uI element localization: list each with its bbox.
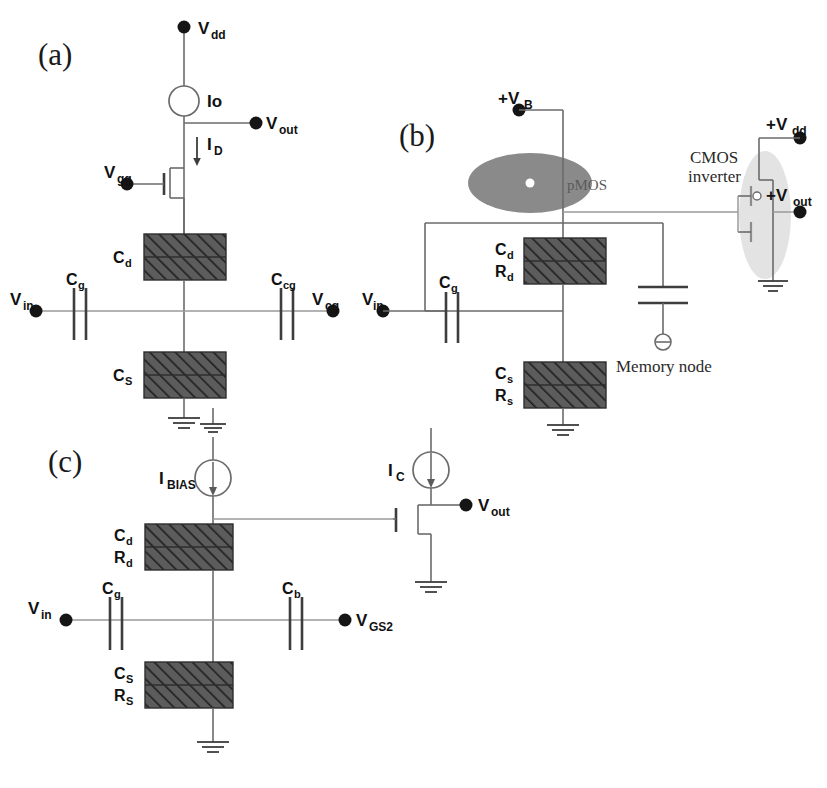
label-vdd-a-sub: dd (211, 28, 226, 42)
label-vout-a-sub: out (279, 123, 298, 137)
label-io-a: Io (207, 92, 222, 111)
label-cd-a: C (113, 249, 125, 266)
label-vgs2-c-sub: GS2 (369, 620, 393, 634)
label-vcg-a-sub: cg (325, 299, 339, 313)
label-id-a: I (207, 135, 212, 154)
label-vout-a: V (266, 114, 278, 133)
label-vdd-b: +V (766, 115, 788, 134)
label-ic-c: I (388, 461, 393, 480)
label-cd-c-sub: d (126, 535, 133, 547)
label-cd-b: C (495, 241, 507, 258)
terminal-vout-a (250, 117, 263, 130)
label-vout-c-sub: out (491, 505, 510, 519)
label-ic-c-sub: C (396, 470, 405, 484)
label-vin-a: V (10, 290, 22, 309)
label-cs-c: C (114, 665, 126, 682)
label-memory-node-b: Memory node (616, 357, 712, 376)
panel-a-letter: (a) (38, 37, 72, 72)
label-rd-b: R (495, 263, 507, 280)
label-vin-c: V (28, 599, 40, 618)
label-cb-c: C (282, 580, 294, 597)
terminal-vin-c (60, 614, 73, 627)
label-vdd-a: V (198, 19, 210, 38)
label-cg-b: C (439, 274, 451, 291)
label-cd-b-sub: d (507, 249, 514, 261)
label-rd-b-sub: d (507, 271, 514, 283)
label-vcg-a: V (312, 290, 324, 309)
label-cg-c-sub: g (114, 588, 121, 600)
terminal-vgs2-c (339, 614, 352, 627)
label-vin-a-sub: in (23, 299, 34, 313)
label-cg-b-sub: g (451, 282, 458, 294)
label-cb-c-sub: b (294, 588, 301, 600)
label-ibias-c: I (159, 469, 164, 488)
label-ccg-a-sub: cg (283, 279, 296, 291)
label-inverter-b: inverter (688, 167, 741, 186)
label-id-a-sub: D (214, 144, 223, 158)
label-cd-a-sub: d (125, 257, 132, 269)
inv-pmos-bubble-b (753, 192, 761, 200)
label-rs-b: R (495, 387, 507, 404)
circuit-figure: (a) V dd Io V out I D V gg (0, 0, 827, 788)
label-vout-c: V (478, 496, 490, 515)
label-rd-c-sub: d (126, 557, 133, 569)
label-vb-b: +V (498, 89, 520, 108)
label-cs-c-sub: S (126, 673, 133, 685)
label-vgg-a: V (104, 163, 116, 182)
panel-c-letter: (c) (48, 444, 82, 479)
label-rd-c: R (114, 549, 126, 566)
panel-b-letter: (b) (399, 118, 435, 153)
label-rs-c-sub: S (126, 695, 133, 707)
label-ibias-c-sub: BIAS (167, 478, 196, 492)
label-vin-b-sub: in (373, 299, 384, 313)
label-cs-b-sub: s (507, 373, 513, 385)
label-vgs2-c: V (356, 611, 368, 630)
label-cs-a: C (113, 367, 125, 384)
pmos-ellipse-dot-b (526, 179, 535, 188)
cmos-inverter-shading-b (739, 151, 791, 279)
label-cd-c: C (114, 527, 126, 544)
label-vout-b-sub: out (793, 195, 812, 209)
label-rs-c: R (114, 687, 126, 704)
label-cs-a-sub: S (125, 375, 132, 387)
label-vdd-b-sub: dd (792, 124, 807, 138)
label-cg-a: C (66, 271, 78, 288)
label-vin-c-sub: in (41, 608, 52, 622)
label-cg-c: C (102, 580, 114, 597)
label-ccg-a: C (271, 271, 283, 288)
terminal-vout-c (460, 499, 473, 512)
label-cs-b: C (495, 365, 507, 382)
terminal-vdd-a (178, 21, 191, 34)
label-pmos-b: pMOS (567, 177, 607, 193)
label-vout-b: +V (766, 186, 788, 205)
label-cmos-b: CMOS (690, 148, 738, 167)
label-rs-b-sub: s (507, 395, 513, 407)
current-source-io (169, 86, 199, 116)
label-vgg-a-sub: gg (117, 172, 132, 186)
label-cg-a-sub: g (78, 279, 85, 291)
